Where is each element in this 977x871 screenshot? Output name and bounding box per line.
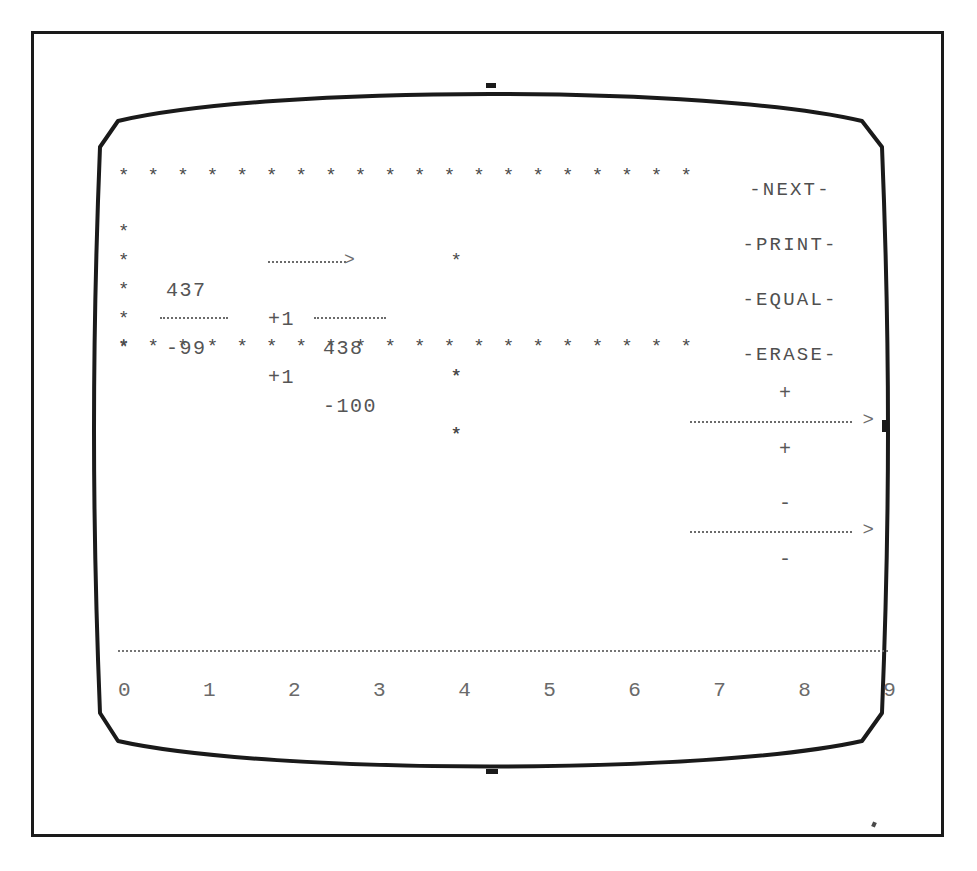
operator-key-plus[interactable]: + > + (680, 383, 890, 461)
plus-arrow-head: > (863, 409, 874, 431)
row1-arrow-shaft (268, 261, 346, 263)
screenshot-root: * * * * * * * * * * * * * * * * * * * * … (0, 0, 977, 871)
minus-arrow-shaft (690, 531, 852, 533)
calc-row-1: * 437 +1 438 * (118, 218, 468, 247)
minus-arrow-icon: > (680, 515, 890, 549)
calc-row-1-arrow: * > * (118, 247, 468, 276)
box-edge-right: * (451, 363, 462, 392)
menu-item-equal[interactable]: -EQUAL- (690, 273, 890, 328)
menu-item-next[interactable]: -NEXT- (690, 163, 890, 218)
plus-symbol-top: + (680, 383, 890, 405)
calc-row-2-underlines: * * (118, 305, 468, 334)
command-menu: -NEXT- -PRINT- -EQUAL- -ERASE- (690, 163, 890, 383)
row1-result: 438 (323, 334, 364, 363)
ruler-digit-2[interactable]: 2 (288, 679, 301, 702)
ruler-digit-9[interactable]: 9 (883, 679, 896, 702)
ruler-digit-6[interactable]: 6 (628, 679, 641, 702)
menu-item-erase[interactable]: -ERASE- (690, 328, 890, 383)
row2-underline-left (160, 317, 228, 319)
calc-row-2: * -99 +1 -100 * (118, 276, 468, 305)
box-blank-row-1: * * (118, 189, 468, 218)
box-edge-right: * (451, 421, 462, 450)
crt-screen-content: * * * * * * * * * * * * * * * * * * * * … (70, 75, 910, 785)
row2-underline-right (314, 317, 386, 319)
minus-symbol-bottom: - (680, 549, 890, 571)
plus-arrow-shaft (690, 421, 852, 423)
minus-symbol-top: - (680, 493, 890, 515)
menu-item-print[interactable]: -PRINT- (690, 218, 890, 273)
ruler-digit-8[interactable]: 8 (798, 679, 811, 702)
plus-arrow-icon: > (680, 405, 890, 439)
box-top-border: * * * * * * * * * * * * * * * * * * * * (118, 163, 468, 189)
ruler-digit-1[interactable]: 1 (203, 679, 216, 702)
plus-symbol-bottom: + (680, 439, 890, 461)
row1-arrow-head: > (344, 251, 355, 269)
digit-ruler: 0 1 2 3 4 5 6 7 8 9 (118, 670, 896, 710)
ruler-digit-5[interactable]: 5 (543, 679, 556, 702)
row2-operator: +1 (268, 363, 295, 392)
operator-key-minus[interactable]: - > - (680, 493, 890, 571)
ruler-digit-3[interactable]: 3 (373, 679, 386, 702)
ruler-digit-7[interactable]: 7 (713, 679, 726, 702)
box-edge-left: * (118, 334, 129, 363)
ruler-digit-4[interactable]: 4 (458, 679, 471, 702)
row2-result: -100 (323, 392, 377, 421)
ruler-divider (118, 650, 888, 652)
minus-arrow-head: > (863, 519, 874, 541)
ruler-digit-0[interactable]: 0 (118, 679, 131, 702)
calculation-box: * * * * * * * * * * * * * * * * * * * * … (118, 163, 468, 360)
